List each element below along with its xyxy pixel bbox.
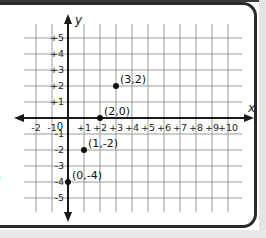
x-tick-label: +7 [173,122,187,133]
x-tick-label: +9 [205,122,219,133]
x-tick-label: +2 [93,122,107,133]
y-tick-label: +3 [50,64,64,75]
y-tick-label: +4 [50,48,64,59]
y-tick-label: +1 [50,96,64,107]
data-point [113,83,119,89]
point-label: (3,2) [120,73,146,86]
y-axis-down-arrow-icon [64,212,72,222]
x-tick-label: +10 [218,122,238,133]
y-axis-label: y [74,13,83,27]
y-tick-label: +5 [50,32,64,43]
data-point [97,115,103,121]
point-label: (1,-2) [88,137,118,150]
data-point [81,147,87,153]
x-tick-label: +1 [77,122,91,133]
x-tick-label: +4 [125,122,139,133]
x-tick-label: +8 [189,122,203,133]
data-point [65,179,71,185]
y-tick-label: +2 [50,80,64,91]
x-tick-label: +6 [157,122,171,133]
point-label: (0,-4) [72,169,102,182]
coordinate-plane: xy-2-1+1+2+3+4+5+6+7+8+9+10+5+4+3+2+1-1-… [0,0,266,238]
x-tick-label: -2 [31,122,40,133]
x-axis-right-arrow-icon [244,114,254,122]
x-tick-label: +5 [141,122,155,133]
y-tick-label: -3 [55,160,64,171]
y-axis-up-arrow-icon [64,14,72,24]
x-tick-label: +3 [109,122,123,133]
origin-label: 0 [57,121,63,132]
y-tick-label: -2 [55,144,64,155]
x-axis-label: x [247,101,256,115]
y-tick-label: -4 [55,176,64,187]
y-tick-label: -5 [55,192,64,203]
x-axis-left-arrow-icon [14,114,24,122]
point-label: (2,0) [104,105,130,118]
